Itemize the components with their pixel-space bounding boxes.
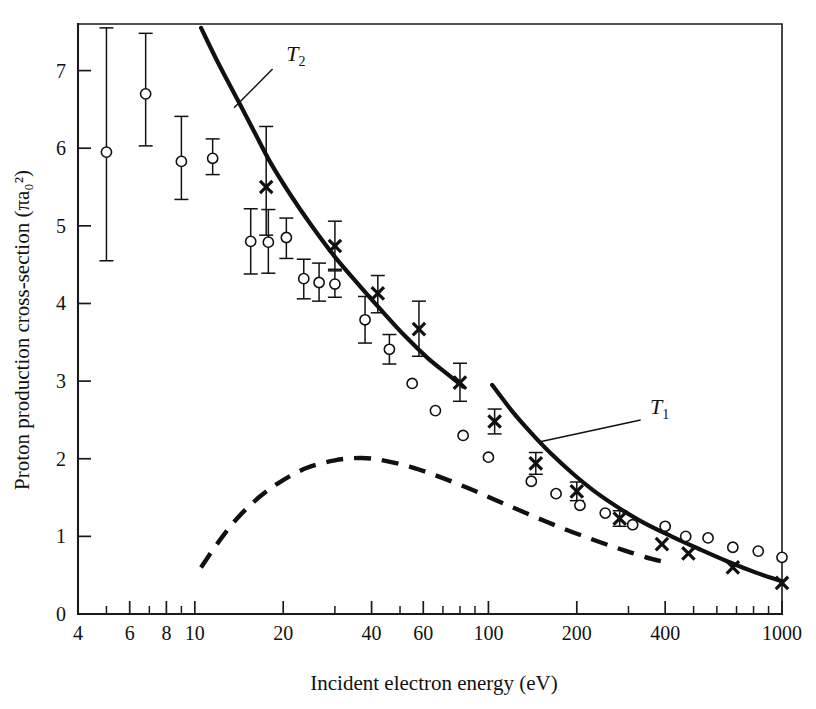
data-marker-circle [101,147,111,157]
y-axis-tick-labels: 01234567 [56,60,66,625]
data-marker-circle [281,232,291,242]
y-axis-title: Proton production cross-section (πa₀²) [10,170,34,490]
x-tick-label: 60 [413,622,433,644]
data-marker-circle [660,521,670,531]
x-tick-label: 100 [473,622,503,644]
y-tick-label: 6 [56,137,66,159]
chart-canvas: 468102040601002004001000 01234567 T2T1 I… [0,0,816,709]
x-tick-label: 200 [562,622,592,644]
error-bar [99,28,113,261]
x-tick-label: 20 [273,622,293,644]
x-tick-label: 1000 [762,622,802,644]
data-marker-circle [483,452,493,462]
data-marker-circle [263,237,273,247]
data-marker-circle [575,500,585,510]
t1-leader-line [540,420,641,442]
x-axis-tick-labels: 468102040601002004001000 [73,622,802,644]
plot-box [78,24,782,614]
data-marker-circle [176,156,186,166]
t1-label: T1 [650,394,669,422]
y-tick-label: 7 [56,60,66,82]
data-marker-circle [551,489,561,499]
data-marker-circle [526,476,536,486]
data-marker-circle [141,89,151,99]
x-tick-label: 4 [73,622,83,644]
x-tick-label: 8 [161,622,171,644]
data-marker-circle [407,378,417,388]
y-axis-title-units: (πa₀²) [10,170,34,218]
data-marker-circle [777,552,787,562]
y-tick-label: 1 [56,525,66,547]
data-marker-circle [208,153,218,163]
data-marker-circle [600,508,610,518]
data-marker-circle [703,533,713,543]
data-marker-circle [246,236,256,246]
data-marker-circle [330,279,340,289]
data-marker-circle [314,277,324,287]
data-marker-circle [628,520,638,530]
t2-leader-line [234,69,273,108]
y-tick-label: 3 [56,370,66,392]
y-tick-label: 4 [56,292,66,314]
t1-label-subscript: 1 [662,407,669,422]
x-tick-label: 6 [125,622,135,644]
x-tick-label: 10 [185,622,205,644]
data-marker-circle [728,542,738,552]
y-axis-title-main: Proton production cross-section [10,218,34,490]
data-marker-cross [682,547,694,559]
x-axis-ticks [78,601,782,614]
plot-frame [78,24,782,614]
t2-label-subscript: 2 [299,54,306,69]
data-marker-circle [430,406,440,416]
data-marker-circle [681,531,691,541]
primary-axes [78,24,782,614]
figure-root: 468102040601002004001000 01234567 T2T1 I… [0,0,816,709]
curve-annotations: T2T1 [234,41,669,441]
data-marker-cross [656,538,668,550]
x-tick-label: 400 [650,622,680,644]
x-axis-title: Incident electron energy (eV) [310,671,557,695]
data-marker-circle [299,274,309,284]
data-marker-circle [360,315,370,325]
data-marker-circle [458,430,468,440]
y-tick-label: 2 [56,448,66,470]
x-tick-label: 40 [362,622,382,644]
data-marker-circle [753,546,763,556]
data-marker-circle [384,344,394,354]
y-tick-label: 0 [56,603,66,625]
y-axis-ticks [78,71,91,537]
y-tick-label: 5 [56,215,66,237]
t2-label: T2 [286,41,305,69]
data-point-markers [101,89,788,589]
model-curves [201,28,782,582]
